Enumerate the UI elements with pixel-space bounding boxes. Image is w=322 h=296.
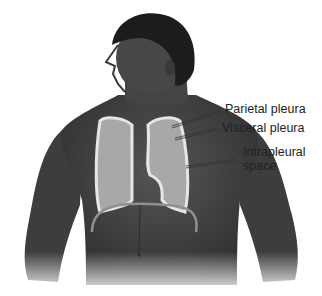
label-intrapleural-space-line2: space <box>243 159 276 173</box>
label-parietal-pleura: Parietal pleura <box>225 102 306 116</box>
label-visceral-pleura: Visceral pleura <box>222 121 304 135</box>
label-intrapleural-space-line1: Intrapleural <box>243 145 306 159</box>
